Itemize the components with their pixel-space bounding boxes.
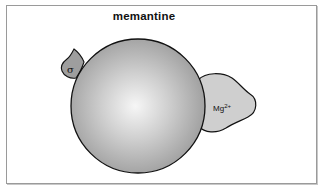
mg-binding-site: Mg2+ — [198, 74, 256, 132]
memantine-sphere — [71, 39, 205, 173]
diagram-canvas: Mg2+ σ — [0, 0, 320, 188]
sigma-label: σ — [67, 64, 74, 75]
